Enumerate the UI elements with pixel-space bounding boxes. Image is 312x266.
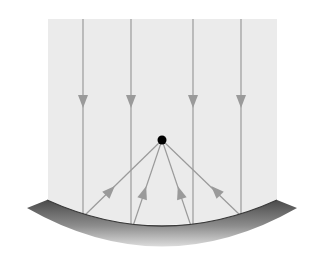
focal-point <box>158 136 167 145</box>
background-panel <box>48 19 277 225</box>
concave-mirror-diagram <box>0 0 312 266</box>
